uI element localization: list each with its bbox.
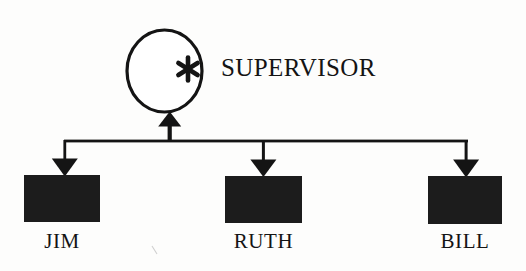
node-box-ruth[interactable] (225, 176, 302, 223)
arrow-down-jim (52, 140, 78, 177)
node-label-bill: BILL (428, 231, 502, 252)
horizontal-connector-bus (64, 140, 468, 143)
node-box-jim[interactable] (24, 175, 100, 222)
node-box-bill[interactable] (428, 176, 502, 224)
node-label-jim: JIM (24, 231, 100, 252)
supervisor-label: SUPERVISOR (221, 55, 376, 80)
diagram-canvas: SUPERVISOR JIM RUTH BILL (0, 0, 526, 271)
arrow-down-ruth (250, 140, 276, 177)
node-label-ruth: RUTH (225, 231, 302, 252)
scan-artifact (152, 246, 157, 254)
arrow-up-to-supervisor (158, 112, 181, 143)
arrow-down-bill (453, 140, 479, 178)
